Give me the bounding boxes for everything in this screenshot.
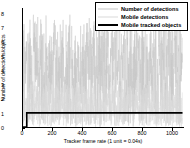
y-tick-label: 2 — [0, 96, 4, 102]
x-tick-label: 0 — [9, 130, 35, 137]
x-tick-mark — [52, 128, 53, 131]
y-tick-label: 4 — [0, 68, 4, 74]
x-tick-label: 400 — [69, 130, 95, 137]
x-tick-label: 600 — [99, 130, 125, 137]
x-tick-mark — [82, 128, 83, 131]
x-tick-mark — [172, 128, 173, 131]
y-tick-label: 3 — [0, 82, 4, 88]
y-tick-label: 0 — [0, 125, 4, 131]
legend-swatch-number-of-detections — [98, 5, 118, 13]
x-tick-label: 1000 — [159, 130, 185, 137]
legend-label: Mobile detections — [121, 13, 168, 21]
x-tick-label: 800 — [129, 130, 155, 137]
x-tick-label: 200 — [39, 130, 65, 137]
legend-swatch-mobile-detections — [98, 13, 118, 21]
chart-figure: Number of detections/objects 012345678 0… — [0, 0, 190, 148]
legend-label: Mobile tracked objects — [121, 21, 181, 29]
chart-legend: Number of detections Mobile detections M… — [95, 2, 188, 31]
legend-item: Mobile tracked objects — [98, 21, 185, 29]
y-tick-label: 5 — [0, 54, 4, 60]
x-tick-mark — [112, 128, 113, 131]
y-tick-label: 1 — [0, 111, 4, 117]
legend-label: Number of detections — [121, 5, 179, 13]
legend-item: Mobile detections — [98, 13, 185, 21]
x-axis-label: Tracker frame rate (1 unit = 0.04s) — [22, 138, 184, 144]
y-tick-label: 8 — [0, 11, 4, 17]
y-tick-label: 7 — [0, 25, 4, 31]
legend-item: Number of detections — [98, 5, 185, 13]
x-tick-mark — [22, 128, 23, 131]
x-tick-mark — [142, 128, 143, 131]
y-tick-label: 6 — [0, 39, 4, 45]
legend-swatch-mobile-tracked-objects — [98, 21, 118, 29]
